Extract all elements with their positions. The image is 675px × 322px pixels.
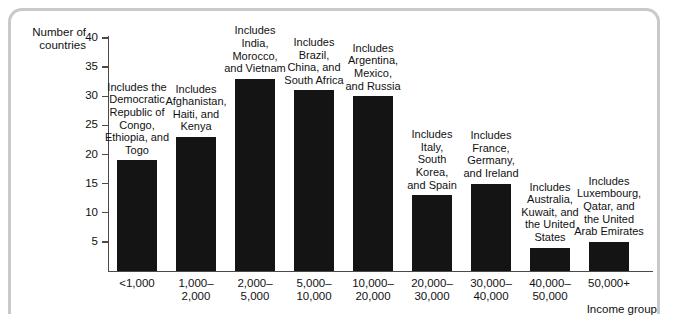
x-axis-line (108, 271, 653, 272)
bar[interactable] (530, 248, 570, 271)
y-tick-5 (102, 241, 109, 242)
y-tick-label-20: 20 (70, 148, 98, 160)
y-tick-label-40: 40 (70, 31, 98, 43)
y-tick-40 (102, 37, 109, 38)
x-tick-label: 10,000– 20,000 (344, 277, 402, 303)
bar[interactable] (412, 195, 452, 271)
x-axis-title: Income group (587, 303, 657, 315)
x-tick-label: 30,000– 40,000 (462, 277, 520, 303)
y-tick-label-10: 10 (70, 206, 98, 218)
bar-annotation: Includes Argentina, Mexico, and Russia (335, 42, 411, 92)
y-tick-15 (102, 183, 109, 184)
bar[interactable] (471, 184, 511, 271)
bar[interactable] (176, 137, 216, 271)
x-tick-label: 1,000– 2,000 (167, 277, 225, 303)
y-tick-label-25: 25 (70, 118, 98, 130)
y-tick-label-15: 15 (70, 177, 98, 189)
figure-page: Number of countries 510152025303540 Incl… (0, 0, 675, 322)
x-tick-label: <1,000 (108, 277, 166, 290)
x-tick-label: 40,000– 50,000 (521, 277, 579, 303)
y-tick-label-30: 30 (70, 89, 98, 101)
bar[interactable] (117, 160, 157, 271)
y-tick-35 (102, 66, 109, 67)
bar-chart: Number of countries 510152025303540 Incl… (0, 0, 675, 322)
bar[interactable] (353, 96, 393, 271)
x-tick-label: 2,000– 5,000 (226, 277, 284, 303)
bar-annotation: Includes Afghanistan, Haiti, and Kenya (158, 83, 234, 133)
y-tick-label-5: 5 (70, 235, 98, 247)
bar[interactable] (235, 79, 275, 271)
x-tick-label: 5,000– 10,000 (285, 277, 343, 303)
bar[interactable] (589, 242, 629, 271)
y-tick-label-35: 35 (70, 60, 98, 72)
bar[interactable] (294, 90, 334, 271)
bar-annotation: Includes Luxembourg, Qatar, and the Unit… (571, 175, 647, 238)
x-tick-label: 50,000+ (580, 277, 638, 290)
y-tick-10 (102, 212, 109, 213)
x-tick-label: 20,000– 30,000 (403, 277, 461, 303)
bar-annotation: Includes France, Germany, and Ireland (453, 129, 529, 179)
